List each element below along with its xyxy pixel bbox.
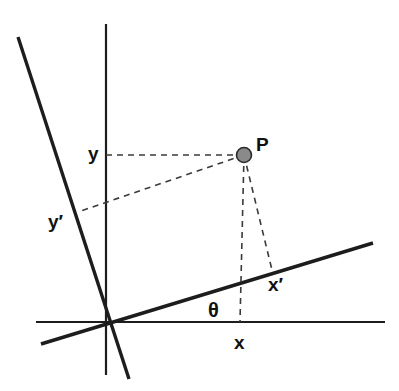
diagram-canvas	[0, 0, 399, 391]
label-y: y	[88, 144, 99, 163]
projection-line-to-x-prime-axis	[244, 155, 272, 270]
y-prime-axis-line	[18, 37, 129, 379]
geometry-diagram: y y′ P x′ θ x	[0, 0, 399, 391]
label-x-prime: x′	[268, 275, 283, 294]
label-y-prime: y′	[48, 212, 63, 231]
label-theta-angle: θ	[208, 300, 219, 320]
point-p-marker	[237, 148, 252, 163]
projection-line-to-y-prime-axis	[78, 155, 244, 212]
projection-line-to-x-axis	[240, 155, 244, 322]
label-x: x	[234, 333, 245, 352]
label-point-p: P	[256, 135, 269, 154]
